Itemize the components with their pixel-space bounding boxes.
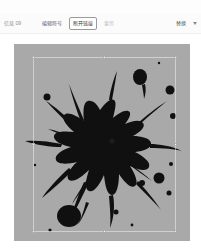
toolbar-status-label: 信息 09 bbox=[2, 18, 38, 28]
window-top-strip bbox=[0, 0, 201, 13]
workspace bbox=[0, 34, 201, 252]
toolbar-right-group: 替换 bbox=[172, 17, 199, 30]
workspace-bottom-strip bbox=[0, 241, 201, 252]
break-link-button[interactable]: 断开链接 bbox=[69, 17, 97, 30]
toolbar: 信息 09 编辑符号 断开链接 重置 替换 bbox=[0, 13, 201, 34]
canvas[interactable] bbox=[14, 44, 190, 241]
replace-button[interactable]: 替换 bbox=[172, 17, 190, 30]
ink-splatter-artwork bbox=[14, 44, 190, 241]
reset-button: 重置 bbox=[100, 17, 118, 30]
chevron-down-icon[interactable] bbox=[193, 22, 197, 25]
app-window: 信息 09 编辑符号 断开链接 重置 替换 bbox=[0, 0, 201, 252]
edit-symbol-button[interactable]: 编辑符号 bbox=[38, 17, 66, 30]
